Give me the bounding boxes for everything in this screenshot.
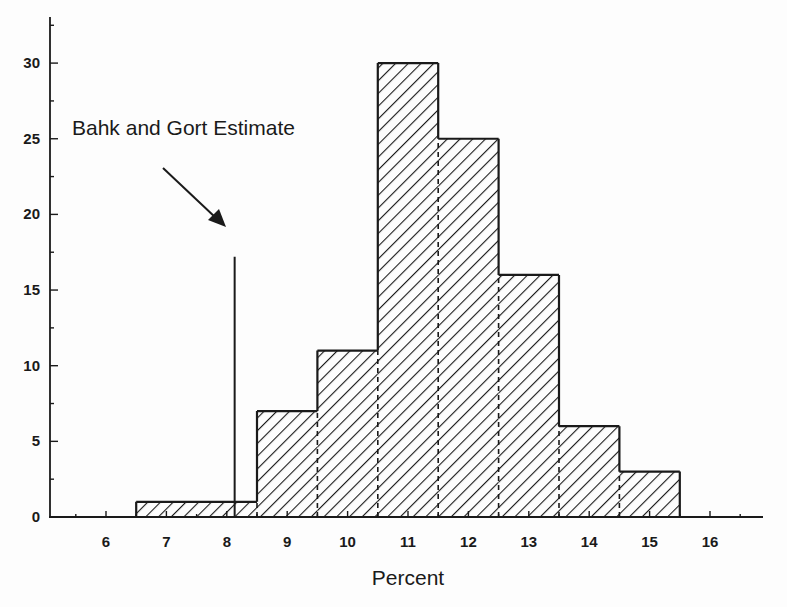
y-tick-label: 0 — [32, 508, 40, 525]
x-tick-label: 15 — [641, 533, 658, 550]
x-axis-label: Percent — [372, 566, 445, 589]
histogram-bar — [378, 63, 438, 517]
annotation-label: Bahk and Gort Estimate — [72, 116, 295, 139]
y-tick-label: 15 — [23, 281, 40, 298]
x-tick-label: 14 — [581, 533, 598, 550]
y-tick-label: 5 — [32, 432, 40, 449]
x-tick-label: 16 — [702, 533, 719, 550]
histogram-bar — [559, 426, 619, 517]
x-tick-label: 13 — [520, 533, 537, 550]
x-tick-label: 7 — [162, 533, 170, 550]
x-tick-label: 6 — [102, 533, 110, 550]
histogram-bar — [317, 351, 377, 517]
histogram-bar — [438, 139, 498, 517]
x-tick-label: 10 — [339, 533, 356, 550]
x-tick-label: 9 — [283, 533, 291, 550]
y-tick-label: 20 — [23, 205, 40, 222]
histogram-bar — [499, 275, 559, 517]
histogram-chart: 051015202530678910111213141516 Bahk and … — [0, 0, 787, 607]
arrow-icon — [163, 168, 216, 218]
x-tick-label: 12 — [460, 533, 477, 550]
y-tick-label: 10 — [23, 357, 40, 374]
x-tick-label: 8 — [223, 533, 231, 550]
histogram-bar — [619, 472, 679, 517]
x-tick-label: 11 — [400, 533, 416, 550]
histogram-bar — [257, 411, 317, 517]
y-tick-label: 25 — [23, 130, 40, 147]
y-tick-label: 30 — [23, 54, 40, 71]
